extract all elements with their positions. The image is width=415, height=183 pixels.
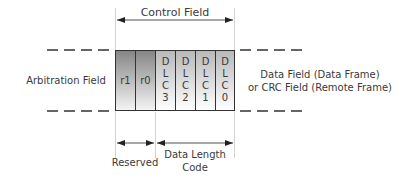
svg-text:3: 3 (162, 92, 168, 103)
cell-r0-label: r0 (140, 75, 150, 86)
svg-text:C: C (162, 80, 169, 91)
cell-dlc2-label: D L C 2 (182, 56, 190, 103)
svg-text:L: L (222, 68, 228, 79)
cell-dlc0-label: D L C 0 (221, 56, 229, 103)
cell-dlc1-label: D L C 1 (202, 56, 210, 103)
svg-text:L: L (163, 68, 169, 79)
svg-text:D: D (202, 56, 210, 67)
svg-text:D: D (162, 56, 170, 67)
svg-text:1: 1 (202, 92, 208, 103)
svg-text:0: 0 (222, 92, 228, 103)
svg-text:C: C (182, 80, 189, 91)
svg-text:L: L (183, 68, 189, 79)
svg-text:C: C (222, 80, 229, 91)
svg-text:D: D (182, 56, 190, 67)
cell-r1-label: r1 (120, 75, 130, 86)
cell-dlc3-label: D L C 3 (162, 56, 170, 103)
cells (116, 51, 235, 111)
reserved-label: Reserved (112, 157, 159, 168)
svg-text:D: D (221, 56, 229, 67)
dlc-label-line2: Code (182, 162, 208, 173)
arbitration-field-label: Arbitration Field (26, 75, 106, 86)
svg-text:C: C (202, 80, 209, 91)
svg-text:L: L (203, 68, 209, 79)
data-field-label-line1: Data Field (Data Frame) (260, 69, 379, 80)
data-field-label-line2: or CRC Field (Remote Frame) (248, 82, 392, 93)
can-control-field-diagram: r1 r0 D L C 3 D L C 2 D L C 1 D L C 0 Co… (0, 0, 415, 183)
svg-text:2: 2 (182, 92, 188, 103)
control-field-label: Control Field (141, 6, 210, 19)
dlc-label-line1: Data Length (164, 149, 226, 160)
